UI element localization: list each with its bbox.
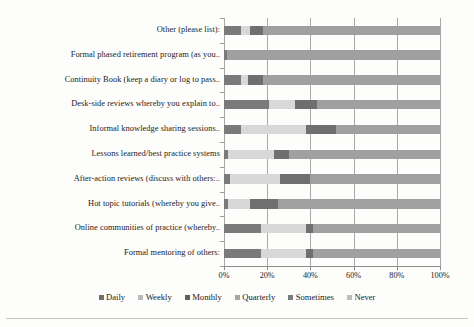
legend-label: Weekly [146,292,172,302]
bar-row [224,18,440,43]
legend-label: Daily [106,292,125,302]
stacked-bar [224,199,440,209]
stacked-bar [224,174,440,184]
bar-segment-weekly [230,174,280,184]
legend-swatch-icon [185,295,190,300]
bar-segment-weekly [241,26,250,36]
x-axis-line [224,266,440,267]
legend-label: Quarterly [242,292,275,302]
bar-segment-monthly [306,125,336,135]
legend-item-never[interactable]: Never [347,292,376,302]
x-tick-80 [397,266,398,270]
category-label: Formal phased retirement program (as you… [0,50,220,60]
legend-item-quarterly[interactable]: Quarterly [235,292,275,302]
y-tick [220,92,224,93]
y-tick [220,117,224,118]
bar-segment-monthly [250,199,278,209]
stacked-bar [224,50,440,60]
legend-label: Never [354,292,375,302]
category-label: Desk-side reviews whereby you explain to… [0,99,220,109]
legend-item-monthly[interactable]: Monthly [185,292,222,302]
bar-segment-weekly [261,249,306,259]
bar-segment-never [317,100,440,110]
bar-row [224,117,440,142]
legend-item-sometimes[interactable]: Sometimes [288,292,334,302]
bar-segment-never [263,75,440,85]
bar-row [224,216,440,241]
category-label: Continuity Book (keep a diary or log to … [0,75,220,85]
bar-row [224,167,440,192]
legend-label: Monthly [192,292,222,302]
category-label: Hot topic tutorials (whereby you give.. [0,199,220,209]
y-tick [220,216,224,217]
y-tick [220,266,224,267]
stacked-bar [224,75,440,85]
bar-segment-never [289,150,440,160]
bar-row [224,142,440,167]
bar-segment-monthly [295,100,317,110]
bar-segment-never [336,125,440,135]
x-tick-20 [267,266,268,270]
bar-segment-weekly [269,100,295,110]
bar-segment-never [313,224,440,234]
x-tick-label: 100% [420,271,460,280]
legend-swatch-icon [288,295,293,300]
footer-divider [6,318,468,319]
category-label: Formal mentoring of others: [0,248,220,258]
gridline-100 [440,18,441,266]
x-tick-label: 20% [247,271,287,280]
stacked-bar [224,26,440,36]
bar-row [224,43,440,68]
x-tick-label: 40% [290,271,330,280]
bar-segment-weekly [228,150,273,160]
bar-segment-never [227,50,440,60]
bar-row [224,192,440,217]
x-tick-60 [354,266,355,270]
bar-segment-weekly [228,199,250,209]
x-tick-0 [224,266,225,270]
category-label: Lessons learned/best practice systems [0,149,220,159]
bar-segment-monthly [274,150,289,160]
bar-segment-daily [224,224,261,234]
bar-segment-daily [224,125,241,135]
y-tick [220,192,224,193]
legend-item-daily[interactable]: Daily [99,292,126,302]
y-tick [220,241,224,242]
category-label: Other (please list): [0,25,220,35]
x-tick-label: 60% [334,271,374,280]
bar-segment-weekly [241,75,247,85]
stacked-bar [224,224,440,234]
x-tick-label: 0% [204,271,244,280]
bar-row [224,241,440,266]
plot-area [224,18,440,266]
bar-segment-daily [224,249,261,259]
stacked-bar [224,150,440,160]
x-tick-40 [310,266,311,270]
bar-segment-daily [224,26,241,36]
bar-segment-weekly [241,125,306,135]
legend-swatch-icon [235,295,240,300]
chart-legend: DailyWeeklyMonthlyQuarterlySometimesNeve… [0,292,474,302]
y-tick [220,18,224,19]
legend-swatch-icon [138,295,143,300]
x-tick-label: 80% [377,271,417,280]
y-tick [220,167,224,168]
bar-segment-never [278,199,440,209]
bar-segment-monthly [280,174,310,184]
category-label: After-action reviews (discuss with other… [0,174,220,184]
bar-segment-never [263,26,440,36]
bar-segment-daily [224,75,241,85]
y-tick [220,43,224,44]
y-tick [220,142,224,143]
stacked-bar-chart: Other (please list):Formal phased retire… [0,0,474,327]
x-tick-100 [440,266,441,270]
legend-item-weekly[interactable]: Weekly [138,292,172,302]
y-tick [220,68,224,69]
bar-row [224,92,440,117]
stacked-bar [224,249,440,259]
category-label: Online communities of practice (whereby.… [0,223,220,233]
legend-swatch-icon [99,295,104,300]
legend-swatch-icon [347,295,352,300]
bar-segment-monthly [248,75,263,85]
stacked-bar [224,100,440,110]
